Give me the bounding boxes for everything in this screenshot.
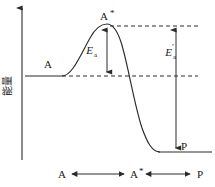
transition-state-label-base: A xyxy=(100,10,108,22)
transition-state-label: A * xyxy=(100,8,115,22)
activation-energy-symbol: E xyxy=(85,44,93,56)
activation-energy-subscript: a xyxy=(94,51,98,59)
reaction-coordinate-axis: A A * P xyxy=(58,166,203,180)
energy-diagram-svg: 能量 A A * E a E ′ a xyxy=(0,0,215,187)
reaction-stage-label-product: P xyxy=(197,168,203,180)
activation-energy-label: E a xyxy=(85,44,98,59)
transition-state-label-star: * xyxy=(110,8,115,18)
reactant-label: A xyxy=(44,58,52,70)
product-label: P xyxy=(181,140,187,152)
reverse-activation-energy-label: E ′ a xyxy=(164,42,177,61)
energy-profile-figure: 能量 A A * E a E ′ a xyxy=(0,0,215,187)
reaction-stage-label-transition-star: * xyxy=(139,166,144,176)
reaction-stage-label-reactant: A xyxy=(58,168,66,180)
reverse-activation-energy-prime: ′ xyxy=(172,42,174,52)
reaction-energy-curve xyxy=(62,24,160,152)
y-axis-label: 能量 xyxy=(1,76,13,96)
reaction-stage-label-transition-base: A xyxy=(130,168,138,180)
